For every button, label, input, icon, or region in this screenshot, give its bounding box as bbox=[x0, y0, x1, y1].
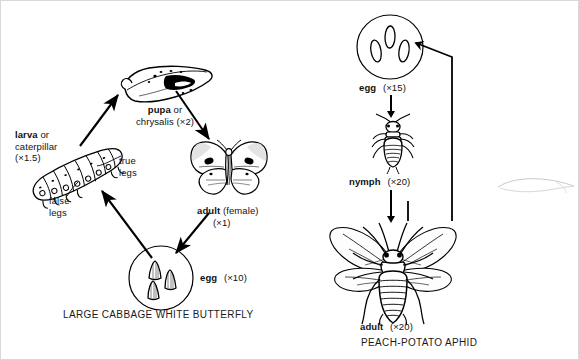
adult-aphid-label: adult (×20) bbox=[360, 321, 413, 333]
aphid-panel-caption: PEACH-POTATO APHID bbox=[361, 337, 477, 349]
arrow-larva-to-pupa bbox=[80, 95, 118, 146]
butterfly-cycle-arrows bbox=[56, 61, 256, 291]
arrow-pupa-to-adult bbox=[176, 91, 209, 139]
arrow-adult-to-egg bbox=[176, 213, 209, 253]
aphid-egg-label-main: egg bbox=[359, 82, 376, 93]
arrow-aphid-adult-to-egg bbox=[390, 39, 470, 221]
larva-label-main: larva bbox=[15, 129, 38, 140]
larva-label-or: or bbox=[38, 129, 49, 140]
nymph-label-main: nymph bbox=[349, 176, 381, 187]
figure-canvas: pupa or chrysalis (×2) larva or caterpil… bbox=[0, 0, 579, 360]
adult-aphid-illustration bbox=[319, 219, 467, 331]
arrow-egg-to-larva bbox=[102, 191, 152, 258]
adult-aphid-magnification: (×20) bbox=[386, 321, 413, 332]
butterfly-panel-caption: LARGE CABBAGE WHITE BUTTERFLY bbox=[63, 309, 254, 321]
adult-aphid-label-main: adult bbox=[360, 321, 383, 332]
stray-pencil-mark bbox=[496, 173, 576, 199]
